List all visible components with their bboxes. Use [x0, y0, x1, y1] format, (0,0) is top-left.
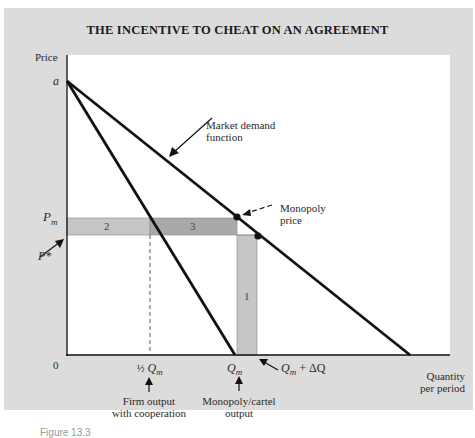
origin-label: 0: [53, 359, 59, 371]
cartel-output-annotation: Monopoly/cartel output: [196, 395, 282, 419]
monopoly-price-line1: Monopoly: [280, 202, 326, 214]
cartel-output-line2: output: [196, 407, 282, 419]
half-qm-label: ½ Qm: [137, 362, 163, 378]
x-axis-label-line2: per period: [395, 382, 465, 394]
y-intercept-label: a: [53, 75, 59, 87]
pstar-arrowhead: [55, 239, 64, 248]
qm-plus-delta-label: Qm + ΔQ: [281, 362, 325, 378]
qm-delta-arrow: [264, 362, 278, 370]
firm-output-annotation: Firm output with cooperation: [103, 395, 195, 419]
pstar-label: P*: [38, 250, 51, 262]
firm-output-line2: with cooperation: [103, 407, 195, 419]
firm-output-line1: Firm output: [103, 395, 195, 407]
cartel-output-line1: Monopoly/cartel: [196, 395, 282, 407]
region-1-label: 1: [244, 290, 250, 302]
market-demand-annotation: Market demand function: [206, 119, 275, 143]
x-axis-label: Quantity per period: [395, 370, 465, 394]
qm-delta-arrowhead: [259, 359, 268, 366]
monopoly-price-line2: price: [280, 214, 326, 226]
pm-label: Pm: [43, 211, 57, 228]
cheating-point: [254, 232, 261, 239]
region-3-label: 3: [190, 220, 196, 232]
y-axis-label: Price: [35, 51, 58, 63]
figure-caption: Figure 13.3: [40, 427, 91, 438]
region-2-label: 2: [104, 220, 110, 232]
market-demand-line1: Market demand: [206, 119, 275, 131]
x-axis-label-line1: Quantity: [395, 370, 465, 382]
plot-area: [67, 55, 450, 355]
market-demand-line2: function: [206, 131, 275, 143]
monopoly-point: [233, 213, 240, 220]
qm-label: Qm: [227, 362, 242, 378]
monopoly-price-annotation: Monopoly price: [280, 202, 326, 226]
